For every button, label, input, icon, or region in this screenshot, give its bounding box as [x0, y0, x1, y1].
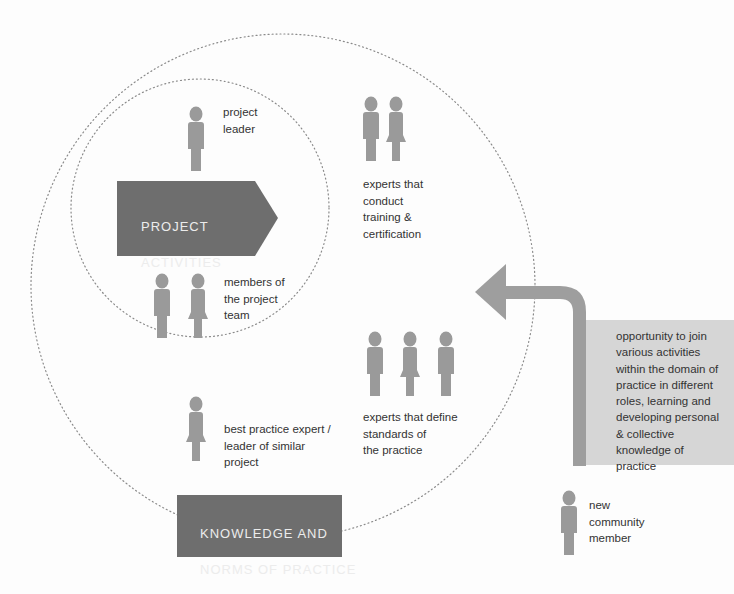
male-figure-icon: [363, 97, 379, 162]
project-activities-title: PROJECT ACTIVITIES: [141, 200, 222, 272]
role-label-new-member: new community member: [589, 497, 645, 547]
project-activities-line1: PROJECT: [141, 219, 209, 234]
knowledge-norms-line1: KNOWLEDGE AND: [200, 526, 328, 541]
role-label-best-practice-expert: best practice expert / leader of similar…: [224, 421, 331, 471]
role-label-project-team: members of the project team: [224, 274, 285, 324]
bent-arrow-icon: [475, 264, 586, 466]
male-figure-icon: [367, 332, 383, 397]
knowledge-norms-line2: NORMS OF PRACTICE: [200, 562, 356, 577]
male-figure-icon: [561, 491, 577, 556]
female-figure-icon: [400, 332, 420, 397]
role-label-standards-experts: experts that define standards of the pra…: [363, 409, 458, 459]
project-activities-line2: ACTIVITIES: [141, 255, 222, 270]
female-figure-icon: [188, 274, 208, 339]
male-figure-icon: [154, 274, 170, 339]
female-figure-icon: [186, 397, 206, 462]
role-label-project-leader: project leader: [223, 104, 258, 137]
male-figure-icon: [188, 107, 204, 172]
male-figure-icon: [438, 332, 454, 397]
knowledge-norms-title: KNOWLEDGE AND NORMS OF PRACTICE: [200, 507, 356, 579]
opportunity-info-text: opportunity to join various activities w…: [616, 328, 719, 475]
role-label-training-experts: experts that conduct training & certific…: [363, 176, 423, 242]
female-figure-icon: [386, 97, 406, 162]
